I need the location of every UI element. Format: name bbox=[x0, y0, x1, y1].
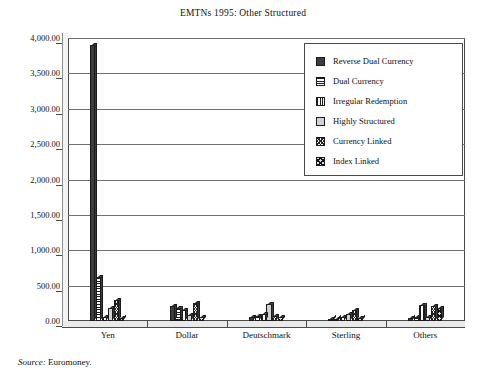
legend-label: Irregular Redemption bbox=[333, 96, 407, 106]
x-axis-tick-label: Dollar bbox=[176, 330, 199, 340]
y-axis-tick-riser bbox=[62, 73, 63, 78]
legend-item: Index Linked bbox=[316, 152, 379, 170]
legend-swatch-icon bbox=[316, 117, 325, 126]
source-value: Euromoney. bbox=[48, 357, 92, 367]
legend-swatch-icon bbox=[316, 77, 325, 86]
x-axis-tick bbox=[386, 321, 387, 327]
legend-label: Currency Linked bbox=[333, 136, 391, 146]
bar bbox=[249, 317, 254, 321]
y-axis-tick-riser bbox=[62, 109, 63, 114]
y-axis-tick-label: 3,500.00 bbox=[0, 68, 60, 78]
bar bbox=[90, 45, 95, 321]
x-axis-tick bbox=[227, 321, 228, 327]
y-axis-tick-label: 0.00 bbox=[0, 316, 60, 326]
y-axis-tick bbox=[56, 291, 62, 292]
y-axis-tick bbox=[56, 43, 62, 44]
y-axis-tick bbox=[56, 220, 62, 221]
source-note: Source: Euromoney. bbox=[18, 357, 92, 367]
chart-title: EMTNs 1995: Other Structured bbox=[0, 8, 486, 18]
source-label: Source: bbox=[18, 357, 46, 367]
y-axis-tick-label: 1,000.00 bbox=[0, 245, 60, 255]
y-axis-tick-label: 500.00 bbox=[0, 281, 60, 291]
y-axis-tick bbox=[56, 78, 62, 79]
y-axis-tick bbox=[56, 149, 62, 150]
x-axis-tick-label: Deutschmark bbox=[243, 330, 291, 340]
legend-swatch-icon bbox=[316, 97, 325, 106]
bar-side-face bbox=[424, 302, 427, 320]
legend-item: Highly Structured bbox=[316, 112, 395, 130]
y-axis-tick-label: 2,500.00 bbox=[0, 139, 60, 149]
bar-group bbox=[147, 38, 226, 321]
x-axis-tick-label: Sterling bbox=[332, 330, 361, 340]
bar-side-face bbox=[118, 297, 121, 320]
y-axis-tick-label: 2,000.00 bbox=[0, 175, 60, 185]
x-axis-tick bbox=[306, 321, 307, 327]
bar bbox=[408, 318, 413, 321]
y-axis-tick-label: 3,000.00 bbox=[0, 104, 60, 114]
bar-group bbox=[68, 38, 147, 321]
bar bbox=[419, 305, 424, 321]
y-axis-tick-label: 4,000.00 bbox=[0, 33, 60, 43]
x-axis-tick-label: Others bbox=[413, 330, 437, 340]
y-axis-tick-riser bbox=[62, 286, 63, 291]
chart-legend: Reverse Dual CurrencyDual CurrencyIrregu… bbox=[304, 43, 463, 176]
y-axis-tick-riser bbox=[62, 321, 63, 326]
y-axis-tick-riser bbox=[62, 215, 63, 220]
y-axis-tick-riser bbox=[62, 38, 63, 43]
bar bbox=[170, 306, 175, 321]
bar bbox=[119, 318, 124, 321]
y-axis-tick bbox=[56, 114, 62, 115]
bar-side-face bbox=[180, 305, 183, 320]
bar bbox=[199, 317, 204, 321]
plot-floor bbox=[62, 321, 465, 328]
bar bbox=[328, 319, 333, 321]
legend-item: Currency Linked bbox=[316, 132, 391, 150]
chart-figure: EMTNs 1995: Other Structured 0.00500.001… bbox=[0, 0, 486, 382]
legend-item: Dual Currency bbox=[316, 72, 384, 90]
bar bbox=[278, 317, 283, 321]
legend-label: Index Linked bbox=[333, 156, 379, 166]
legend-item: Reverse Dual Currency bbox=[316, 52, 414, 70]
y-axis-tick-riser bbox=[62, 180, 63, 185]
y-axis-tick bbox=[56, 185, 62, 186]
legend-item: Irregular Redemption bbox=[316, 92, 407, 110]
legend-swatch-icon bbox=[316, 157, 325, 166]
x-axis-tick bbox=[147, 321, 148, 327]
bar bbox=[334, 319, 339, 321]
bar bbox=[102, 317, 107, 321]
bar-group bbox=[227, 38, 306, 321]
y-axis-tick bbox=[56, 255, 62, 256]
bar bbox=[340, 317, 345, 321]
legend-label: Reverse Dual Currency bbox=[333, 56, 414, 66]
y-axis-tick-riser bbox=[62, 250, 63, 255]
legend-swatch-icon bbox=[316, 57, 325, 66]
bar-side-face bbox=[441, 306, 444, 320]
legend-label: Dual Currency bbox=[333, 76, 384, 86]
legend-swatch-icon bbox=[316, 137, 325, 146]
y-axis-tick-label: 1,500.00 bbox=[0, 210, 60, 220]
bar-side-face bbox=[282, 315, 285, 320]
x-axis-tick-label: Yen bbox=[101, 330, 115, 340]
y-axis-tick-riser bbox=[62, 144, 63, 149]
legend-label: Highly Structured bbox=[333, 116, 395, 126]
bar bbox=[357, 318, 362, 321]
y-axis-tick bbox=[56, 326, 62, 327]
bar-side-face bbox=[100, 274, 103, 320]
bar bbox=[414, 317, 419, 321]
